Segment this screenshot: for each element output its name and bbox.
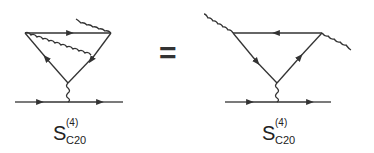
left-symbol: S <box>53 122 66 144</box>
right-diagram <box>204 14 351 102</box>
right-superscript: (4) <box>275 117 287 128</box>
left-diagram <box>15 19 123 102</box>
right-subscript: C20 <box>275 134 295 146</box>
equals-sign: = <box>159 36 177 70</box>
left-label: S (4) C20 <box>53 122 66 145</box>
right-symbol: S <box>262 122 275 144</box>
right-label: S (4) C20 <box>262 122 275 145</box>
left-superscript: (4) <box>66 117 78 128</box>
left-subscript: C20 <box>66 134 86 146</box>
